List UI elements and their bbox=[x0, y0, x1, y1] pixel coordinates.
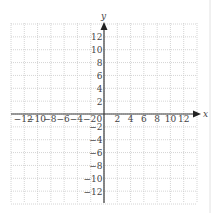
x-tick-label: −4 bbox=[70, 114, 84, 124]
y-tick-label: 2 bbox=[97, 97, 103, 107]
y-tick-label: −12 bbox=[84, 187, 103, 197]
y-tick-label: 12 bbox=[91, 32, 102, 42]
x-tick-label: 10 bbox=[165, 114, 177, 124]
y-axis-arrow-icon bbox=[101, 22, 108, 30]
y-tick-label: −4 bbox=[89, 135, 103, 145]
coordinate-plane: x y −12−10−8−6−4−2024681012 −12−10−8−6−4… bbox=[0, 0, 213, 213]
x-tick-label: 4 bbox=[128, 114, 134, 124]
y-axis-label: y bbox=[100, 11, 107, 21]
x-tick-label: 12 bbox=[178, 114, 189, 124]
y-tick-label: 8 bbox=[97, 58, 103, 68]
y-tick-label: 10 bbox=[91, 45, 103, 55]
y-tick-label: −2 bbox=[89, 122, 102, 132]
x-tick-label: 2 bbox=[114, 114, 120, 124]
axes: x y bbox=[11, 11, 208, 203]
x-tick-label: 8 bbox=[154, 114, 160, 124]
x-tick-label: −8 bbox=[43, 114, 57, 124]
y-tick-label: −8 bbox=[89, 161, 103, 171]
x-tick-label: −6 bbox=[57, 114, 71, 124]
y-tick-label: −6 bbox=[89, 148, 103, 158]
x-tick-label: 6 bbox=[141, 114, 147, 124]
y-tick-label: 6 bbox=[97, 71, 103, 81]
y-tick-label: −10 bbox=[84, 174, 103, 184]
y-tick-label: 4 bbox=[97, 84, 103, 94]
x-axis-label: x bbox=[203, 109, 208, 119]
